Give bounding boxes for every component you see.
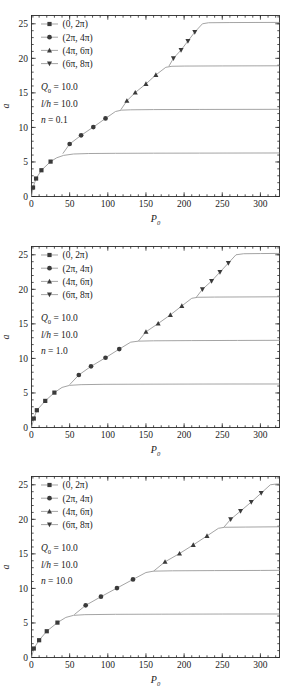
annotation-2: l/h = 10.0 bbox=[41, 330, 78, 340]
x-tick-label: 50 bbox=[65, 430, 75, 440]
series-marker-4 bbox=[171, 56, 176, 61]
x-tick-label: 50 bbox=[65, 661, 75, 671]
series-curve-4 bbox=[196, 253, 279, 297]
plot-area-2: 0501001502002503000510152025P0a(0, 2π)(2… bbox=[0, 231, 287, 462]
x-tick-label: 250 bbox=[215, 199, 229, 209]
legend-label-2: (2π, 4π) bbox=[63, 263, 93, 274]
legend-label-1: (0, 2π) bbox=[63, 481, 88, 492]
x-tick-label: 200 bbox=[177, 430, 191, 440]
x-tick-label: 300 bbox=[253, 199, 267, 209]
plot-area-1: 0501001502002503000510152025P0a(0, 2π)(2… bbox=[0, 0, 287, 231]
series-marker-1 bbox=[52, 390, 56, 394]
legend-label-2: (2π, 4π) bbox=[63, 33, 93, 44]
x-tick-label: 0 bbox=[29, 430, 34, 440]
chart-panel-1: 0501001502002503000510152025P0a(0, 2π)(2… bbox=[0, 0, 287, 231]
x-tick-label: 100 bbox=[101, 430, 115, 440]
x-tick-label: 200 bbox=[177, 661, 191, 671]
series-marker-3 bbox=[177, 551, 182, 556]
series-marker-3 bbox=[179, 303, 184, 308]
x-tick-label: 250 bbox=[215, 430, 229, 440]
y-tick-label: 10 bbox=[19, 584, 29, 594]
chart-panel-2: 0501001502002503000510152025P0a(0, 2π)(2… bbox=[0, 231, 287, 462]
y-tick-label: 10 bbox=[19, 353, 29, 363]
series-curve-3 bbox=[121, 66, 280, 110]
series-marker-1 bbox=[34, 176, 38, 180]
y-tick-label: 5 bbox=[23, 157, 28, 167]
series-marker-3 bbox=[191, 542, 196, 547]
series-marker-1 bbox=[43, 398, 47, 402]
plot-area-3: 0501001502002503000510152025P0a(0, 2π)(2… bbox=[0, 461, 287, 692]
x-tick-label: 0 bbox=[29, 199, 34, 209]
x-tick-label: 100 bbox=[101, 199, 115, 209]
legend-label-4: (6π, 8π) bbox=[63, 59, 93, 70]
y-tick-label: 15 bbox=[19, 549, 29, 559]
y-tick-label: 20 bbox=[19, 515, 29, 525]
series-marker-1 bbox=[55, 621, 59, 625]
series-marker-3 bbox=[163, 559, 168, 564]
series-marker-2 bbox=[79, 133, 84, 138]
series-marker-2 bbox=[99, 595, 104, 600]
legend-label-1: (0, 2π) bbox=[63, 250, 88, 261]
y-axis-title: a bbox=[1, 565, 12, 570]
series-marker-1 bbox=[37, 638, 41, 642]
series-marker-2 bbox=[91, 125, 96, 130]
series-marker-2 bbox=[131, 577, 136, 582]
legend-marker-1 bbox=[47, 483, 51, 487]
legend-label-1: (0, 2π) bbox=[63, 19, 88, 30]
legend-label-4: (6π, 8π) bbox=[63, 290, 93, 301]
series-marker-3 bbox=[153, 72, 158, 77]
x-tick-label: 50 bbox=[65, 199, 75, 209]
series-marker-2 bbox=[83, 603, 88, 608]
series-marker-3 bbox=[143, 329, 148, 334]
series-marker-2 bbox=[103, 355, 108, 360]
legend-label-3: (4π, 6π) bbox=[63, 46, 93, 57]
x-tick-label: 150 bbox=[139, 430, 153, 440]
y-tick-label: 25 bbox=[19, 19, 29, 29]
series-marker-1 bbox=[39, 168, 43, 172]
series-curve-2 bbox=[70, 340, 280, 384]
series-marker-2 bbox=[89, 364, 94, 369]
series-curve-4 bbox=[169, 22, 280, 66]
x-tick-label: 100 bbox=[101, 661, 115, 671]
y-tick-label: 5 bbox=[23, 619, 28, 629]
series-marker-2 bbox=[67, 142, 72, 147]
series-curve-1 bbox=[32, 614, 280, 658]
y-tick-label: 5 bbox=[23, 388, 28, 398]
x-axis-title: P0 bbox=[150, 675, 161, 687]
legend-marker-2 bbox=[47, 265, 52, 270]
legend-label-3: (4π, 6π) bbox=[63, 507, 93, 518]
series-curve-1 bbox=[32, 153, 280, 197]
y-tick-label: 25 bbox=[19, 250, 29, 260]
legend-marker-1 bbox=[47, 22, 51, 26]
series-curve-4 bbox=[224, 484, 280, 527]
series-marker-3 bbox=[204, 533, 209, 538]
x-tick-label: 300 bbox=[253, 661, 267, 671]
legend-label-3: (4π, 6π) bbox=[63, 276, 93, 287]
y-tick-label: 0 bbox=[23, 653, 28, 663]
series-curve-2 bbox=[63, 109, 280, 153]
annotation-2: l/h = 10.0 bbox=[41, 560, 78, 570]
series-curve-1 bbox=[32, 384, 280, 428]
x-tick-label: 0 bbox=[29, 661, 34, 671]
legend-marker-1 bbox=[47, 252, 51, 256]
y-tick-label: 10 bbox=[19, 123, 29, 133]
series-marker-1 bbox=[35, 408, 39, 412]
annotation-3: n = 10.0 bbox=[41, 577, 73, 587]
series-marker-3 bbox=[156, 320, 161, 325]
figure-three-panel-plot: 0501001502002503000510152025P0a(0, 2π)(2… bbox=[0, 0, 287, 692]
series-marker-1 bbox=[32, 647, 36, 651]
x-axis-title: P0 bbox=[150, 213, 161, 225]
series-marker-1 bbox=[45, 629, 49, 633]
y-tick-label: 15 bbox=[19, 88, 29, 98]
legend-label-2: (2π, 4π) bbox=[63, 494, 93, 505]
x-axis-title: P0 bbox=[150, 444, 161, 456]
annotation-3: n = 0.1 bbox=[41, 115, 68, 125]
series-curve-2 bbox=[74, 571, 279, 615]
series-marker-2 bbox=[103, 116, 108, 121]
annotation-1: Q0 = 10.0 bbox=[41, 313, 78, 324]
annotation-3: n = 1.0 bbox=[41, 346, 68, 356]
annotation-1: Q0 = 10.0 bbox=[41, 82, 78, 93]
series-marker-1 bbox=[48, 160, 52, 164]
x-tick-label: 250 bbox=[215, 661, 229, 671]
series-curve-3 bbox=[138, 296, 279, 340]
